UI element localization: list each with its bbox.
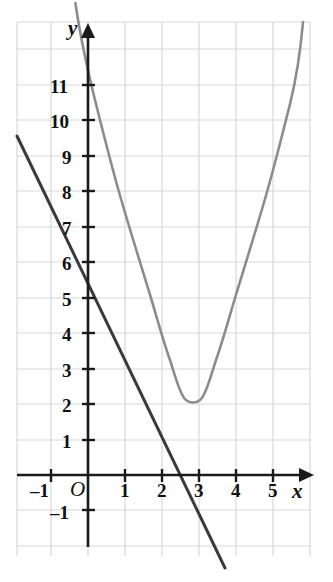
xtick-label--1: –1 (30, 481, 49, 500)
origin-label: O (70, 479, 85, 500)
xtick-label-2: 2 (157, 481, 167, 500)
ytick-label-1: 1 (62, 432, 72, 451)
ytick-label-2: 2 (62, 396, 72, 415)
ytick-label-8: 8 (62, 183, 72, 202)
ytick-label-7: 7 (62, 219, 72, 238)
ytick-label-10: 10 (50, 112, 69, 131)
ytick-label-4: 4 (62, 325, 72, 344)
graph-figure: –1 1 2 3 4 5 –1 1 2 3 4 5 6 7 8 9 10 11 … (0, 0, 333, 582)
ytick-label-9: 9 (62, 148, 72, 167)
xtick-label-1: 1 (120, 481, 130, 500)
xtick-label-3: 3 (194, 481, 204, 500)
parabola-curve (75, 3, 303, 403)
xtick-label-4: 4 (231, 481, 241, 500)
axes (17, 23, 314, 547)
ytick-label-6: 6 (62, 254, 72, 273)
ytick-label-5: 5 (62, 290, 72, 309)
ytick-label--1: –1 (50, 503, 69, 522)
ytick-label-11: 11 (50, 77, 68, 96)
y-axis-label: y (68, 18, 77, 39)
ytick-label-3: 3 (62, 361, 72, 380)
x-axis-label: x (292, 481, 303, 502)
xtick-label-5: 5 (268, 481, 278, 500)
